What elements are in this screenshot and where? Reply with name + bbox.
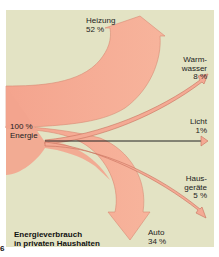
figure-number: 6 <box>0 244 4 253</box>
title-line-2: in privaten Haushalten <box>14 239 100 248</box>
source-name: Energie <box>10 132 38 141</box>
label-auto: Auto 34 % <box>148 229 166 246</box>
warmwasser-value: 8 % <box>175 73 207 82</box>
label-warmwasser: Warm- wasser 8 % <box>175 56 207 82</box>
auto-value: 34 % <box>148 238 166 247</box>
licht-value: 1% <box>175 127 207 136</box>
label-hausgeraete: Haus- geräte 5 % <box>175 175 207 201</box>
heizung-value: 52 % <box>86 26 115 35</box>
title-line-1: Energieverbrauch <box>14 230 100 239</box>
label-heizung: Heizung 52 % <box>86 17 115 34</box>
diagram-title: Energieverbrauch in privaten Haushalten <box>14 230 100 248</box>
hausgeraete-value: 5 % <box>175 192 207 201</box>
label-source: 100 % Energie <box>10 123 38 140</box>
label-licht: Licht 1% <box>175 118 207 135</box>
